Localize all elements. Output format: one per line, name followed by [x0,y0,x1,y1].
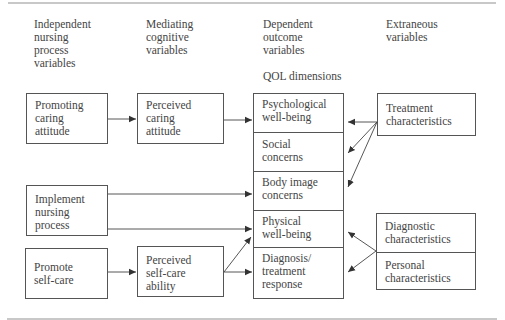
arrows-layer [0,0,505,320]
arrow-perceived-self-care-to-physical [224,237,251,272]
arrow-extraneous-to-physical [348,232,376,251]
arrow-treatment-to-body-image [348,122,377,187]
arrow-extraneous-to-diagnosis [348,251,376,272]
arrow-treatment-to-social [348,122,377,153]
